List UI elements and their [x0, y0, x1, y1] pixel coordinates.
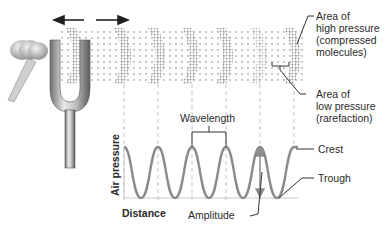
mallet-icon: [8, 40, 48, 102]
wavelength-label: Wavelength: [180, 112, 235, 124]
wavelength-bracket: [192, 126, 226, 147]
y-axis-label: Air pressure: [109, 134, 121, 196]
trough-label: Trough: [318, 172, 351, 184]
pressure-wave: [124, 147, 298, 198]
wavelength-guide-lines: [124, 84, 294, 200]
low-pressure-label: Area of low pressure (rarefaction): [316, 88, 376, 124]
x-axis-label: Distance: [122, 207, 166, 219]
air-molecules: [60, 28, 306, 84]
vibration-arrows-icon: [54, 16, 128, 24]
crest-label: Crest: [318, 143, 343, 155]
amplitude-label: Amplitude: [188, 209, 235, 221]
high-pressure-label: Area of high pressure (compressed molecu…: [316, 10, 380, 58]
